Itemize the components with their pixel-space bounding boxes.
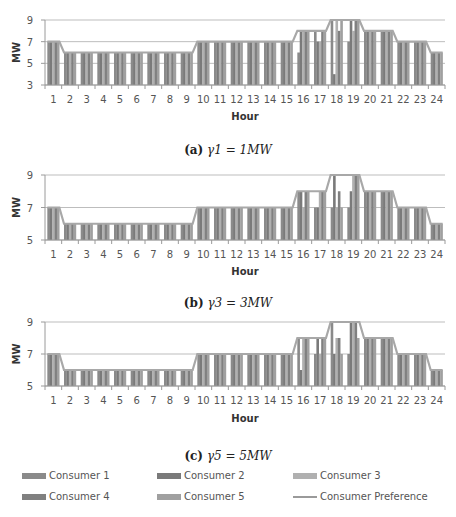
bar [290,208,293,241]
bar [69,370,72,386]
bar [221,208,224,241]
bar [297,53,300,86]
bar [438,224,441,240]
bar [374,191,377,240]
bar [114,224,117,240]
x-tick-label: 13 [247,395,260,406]
bar [135,53,138,86]
bar [221,354,224,386]
bar [247,208,250,241]
bar [102,370,105,386]
bar [185,224,188,240]
bar [97,370,100,386]
bar [321,31,324,85]
bar [116,224,119,240]
bar [214,42,217,85]
bar [74,224,77,240]
bar [355,322,358,386]
bar [207,208,210,241]
bar [119,53,122,86]
y-tick-label: 7 [27,203,33,214]
x-tick-label: 18 [330,94,343,105]
bar [166,224,169,240]
bar [150,53,153,86]
caption-c-math: γ5 = 5MW [207,449,272,463]
bar [52,354,55,386]
legend: Consumer 1 Consumer 2 Consumer 3 Consume… [0,466,456,511]
bar [285,208,288,241]
bar [352,175,355,240]
bar [169,224,172,240]
bar [305,31,308,85]
bar [385,191,388,240]
bar [69,224,72,240]
bar [233,354,236,386]
bar [188,224,191,240]
bar [105,53,108,86]
bar [319,191,322,240]
bar [55,208,58,241]
x-tick-label: 11 [214,94,227,105]
bar [440,370,443,386]
x-axis-label: Hour [231,266,258,277]
x-tick-label: 14 [264,249,277,260]
x-tick-label: 3 [83,94,89,105]
bar [400,354,403,386]
bar [321,338,324,386]
bar [150,370,153,386]
bar [47,208,50,241]
legend-label-consumer-preference: Consumer Preference [320,491,428,502]
x-tick-label: 20 [364,395,377,406]
bar [102,224,105,240]
bar [388,31,391,85]
bar [407,42,410,85]
bar [419,354,422,386]
bar [166,53,169,86]
bar [250,208,253,241]
legend-label-consumer-5: Consumer 5 [184,491,245,502]
x-tick-label: 5 [117,94,123,105]
x-tick-label: 17 [314,395,327,406]
bar [66,370,69,386]
bar [390,191,393,240]
x-tick-label: 10 [197,395,210,406]
bar [433,224,436,240]
caption-c: (c) γ5 = 5MW [0,449,456,463]
bar [138,53,141,86]
bar [247,42,250,85]
bar [224,42,227,85]
bar [255,354,258,386]
bar [235,354,238,386]
bar [397,42,400,85]
bar [269,42,272,85]
bar [364,191,367,240]
x-axis-label: Hour [231,413,258,424]
bar [85,53,88,86]
bar [316,338,319,386]
bar [290,354,293,386]
x-tick-label: 22 [397,249,410,260]
x-tick-label: 12 [230,249,243,260]
bar [324,338,327,386]
bar [424,42,427,85]
bar [157,53,160,86]
x-tick-label: 7 [150,249,156,260]
bar [133,53,136,86]
bar [188,370,191,386]
bar [240,208,243,241]
bar [214,208,217,241]
bar [271,354,274,386]
x-tick-label: 13 [247,249,260,260]
bar [107,370,110,386]
bar [283,208,286,241]
bar [283,42,286,85]
x-tick-label: 8 [167,94,173,105]
bar [374,31,377,85]
bar [335,338,338,386]
bar [314,354,317,386]
caption-c-label: (c) [184,449,203,463]
bar [402,208,405,241]
bar [283,354,286,386]
x-tick-label: 14 [264,94,277,105]
bar [414,354,417,386]
